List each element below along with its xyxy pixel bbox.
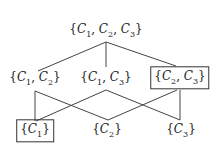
node-c1-c2: {C1, C2} — [9, 71, 60, 86]
edge-c123-c23 — [106, 42, 176, 66]
node-c1-c3: {C1, C3} — [80, 71, 131, 86]
node-c1-c2-c3: {C1, C2, C3} — [69, 23, 142, 38]
edge-c123-c12 — [38, 42, 106, 71]
edge-c13-c1 — [36, 90, 106, 121]
node-c2-c3-boxed: {C2, C3} — [150, 66, 209, 89]
node-c3: {C3} — [166, 123, 196, 138]
node-c2: {C2} — [92, 123, 122, 138]
node-c1-boxed: {C1} — [16, 119, 54, 142]
